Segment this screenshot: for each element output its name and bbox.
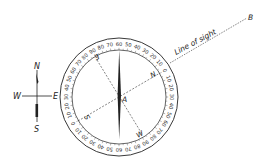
- dial-ring-label: 40: [97, 143, 105, 151]
- dial-tick: [143, 138, 144, 140]
- dial-tick: [149, 133, 150, 135]
- dial-tick: [155, 65, 157, 66]
- dial-tick: [162, 77, 163, 78]
- dial-tick: [146, 136, 147, 137]
- dial-tick: [75, 117, 76, 118]
- dial-tick: [162, 117, 163, 118]
- dial-tick: [163, 80, 165, 81]
- dial-tick: [91, 136, 92, 137]
- dial-ring-label: 20: [168, 84, 175, 92]
- dial-tick: [160, 121, 162, 122]
- line-of-sight-label: Line of sight: [173, 27, 219, 57]
- dial-ring-label: 30: [88, 139, 97, 148]
- dial-tick: [163, 113, 165, 114]
- dial-ring-label: 30: [141, 47, 150, 56]
- compass-dial: 6050403020100102030405060708090807060504…: [60, 38, 178, 156]
- dial-tick: [76, 72, 78, 73]
- dial-ring-label: 70: [124, 146, 132, 153]
- dial-tick: [87, 133, 88, 135]
- line-of-sight: Line of sight B: [170, 13, 253, 63]
- dial-w-label: W: [135, 129, 146, 140]
- dial-ring-label: 70: [155, 127, 164, 136]
- dial-tick: [73, 113, 75, 114]
- dial-ring-label: 10: [65, 111, 73, 119]
- dial-ring-label: 0: [70, 121, 77, 127]
- dial-ring-label: 80: [149, 133, 158, 142]
- dial-ring-label: 60: [161, 119, 170, 128]
- dial-tick: [81, 65, 83, 66]
- dial-ring-label: 50: [106, 146, 114, 153]
- dial-ring-label: 20: [80, 133, 89, 142]
- rose-w-label: W: [13, 92, 22, 101]
- dial-ring-label: 70: [74, 58, 83, 67]
- dial-tick: [91, 57, 92, 58]
- dial-ring-label: 20: [149, 52, 158, 61]
- dial-tick: [158, 124, 159, 125]
- dial-ring-label: 70: [106, 41, 114, 48]
- dial-ring-label: 50: [124, 41, 132, 48]
- dial-tick: [158, 69, 159, 70]
- dial-tick: [79, 69, 80, 70]
- dial-ring-label: 0: [162, 67, 169, 73]
- dial-ring-label: 30: [169, 94, 175, 101]
- dial-tick: [87, 59, 88, 61]
- dial-ring-label: 40: [133, 43, 141, 51]
- dial-tick: [155, 127, 157, 128]
- dial-tick: [94, 138, 95, 140]
- dial-tick: [85, 130, 86, 131]
- dial-ring-label: 10: [74, 127, 83, 136]
- dial-tick: [152, 130, 153, 131]
- rose-e-label: E: [53, 92, 59, 101]
- dial-ring-label: 80: [97, 43, 105, 51]
- rose-s-label: S: [34, 125, 39, 134]
- dial-ring-label: 40: [168, 102, 175, 110]
- line-of-sight-dashed: [170, 18, 247, 63]
- dial-tick: [102, 141, 103, 143]
- dial-tick: [139, 53, 140, 54]
- dial-tick: [102, 51, 103, 53]
- dial-ring-label: 50: [65, 75, 73, 83]
- point-a-label: A: [121, 95, 127, 104]
- dial-tick: [152, 63, 153, 64]
- dial-ring-label: 60: [116, 147, 123, 153]
- dial-tick: [85, 63, 86, 64]
- dial-ring-label: 10: [165, 75, 173, 83]
- rose-south-bar-icon: [36, 104, 39, 117]
- dial-ring-label: 60: [116, 41, 123, 47]
- dial-ring-label: 80: [80, 52, 89, 61]
- dial-tick: [99, 140, 100, 141]
- dial-tick: [81, 127, 83, 128]
- dial-ring-label: 10: [155, 58, 164, 67]
- dial-tick: [135, 141, 136, 143]
- dial-ring-label: 50: [165, 111, 173, 119]
- dial-ring-label: 30: [63, 94, 69, 101]
- dial-ring-label: 80: [133, 143, 141, 151]
- point-b-label: B: [248, 13, 253, 22]
- dial-tick: [73, 80, 75, 81]
- dial-tick: [149, 59, 150, 61]
- reference-rose: N S W E: [13, 62, 59, 134]
- dial-ring-label: 90: [141, 139, 150, 148]
- compass-needle-icon: [118, 50, 121, 139]
- dial-tick: [79, 124, 80, 125]
- dial-tick: [146, 57, 147, 58]
- dial-tick: [143, 54, 144, 56]
- dial-ring-label: 20: [63, 102, 70, 110]
- dial-tick: [75, 77, 76, 78]
- dial-tick: [135, 51, 136, 53]
- compass-diagram: N S W E 60504030201001020304050607080908…: [0, 0, 263, 161]
- dial-ring-label: 60: [69, 66, 78, 75]
- dial-s-label: S: [83, 113, 92, 121]
- rose-n-label: N: [34, 62, 40, 71]
- dial-ring-label: 40: [63, 84, 70, 92]
